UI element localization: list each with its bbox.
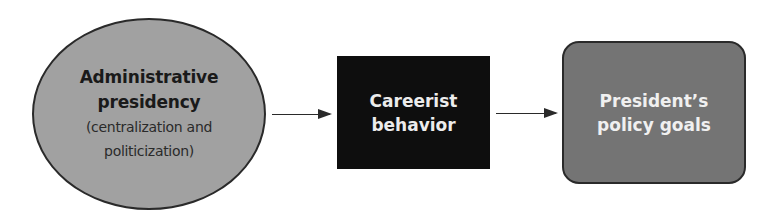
node-careerist-behavior: Careerist behavior [337,56,490,169]
node-title-line-1: President’s [600,89,709,113]
node-title-line-1: Administrative [80,65,219,90]
arrow-presidency-to-careerist [272,114,330,115]
node-title-line-2: presidency [98,90,201,115]
arrow-careerist-to-policy-goals [496,113,556,114]
node-title-line-2: behavior [371,113,455,137]
node-subtitle-line-1: (centralization and [86,115,212,139]
node-title-line-1: Careerist [370,89,458,113]
diagram-canvas: Administrative presidency (centralizatio… [0,0,778,222]
node-administrative-presidency: Administrative presidency (centralizatio… [32,18,266,210]
node-presidents-policy-goals: President’s policy goals [562,41,746,184]
arrowhead-icon [318,109,332,119]
node-subtitle-line-2: politicization) [104,139,194,163]
arrowhead-icon [544,108,558,118]
node-title-line-2: policy goals [597,113,711,137]
